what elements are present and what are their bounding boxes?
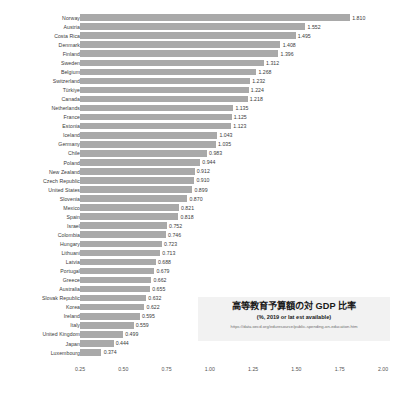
bar[interactable] (80, 60, 264, 67)
category-label: Finland (63, 51, 80, 57)
bar[interactable] (80, 50, 278, 57)
bar[interactable] (80, 213, 178, 220)
bar-value-label: 0.746 (166, 232, 181, 238)
x-axis-tick-label: 2.00 (378, 366, 388, 372)
category-label: Poland (64, 160, 80, 166)
bar[interactable] (80, 23, 305, 30)
bar-row: Costa Rica1.495 (0, 31, 398, 40)
bar-value-label: 0.983 (207, 150, 222, 156)
x-axis: 0.250.500.751.001.251.501.752.00 (0, 366, 398, 380)
bar[interactable] (80, 204, 179, 211)
bar[interactable] (80, 231, 166, 238)
bar-row: Germany1.035 (0, 140, 398, 149)
bar[interactable] (80, 286, 150, 293)
bar-track: 1.135 (80, 105, 383, 112)
bar[interactable] (80, 141, 216, 148)
category-label: New Zealand (49, 169, 80, 175)
category-label: Belgium (61, 69, 80, 75)
bar-row: Iceland1.043 (0, 131, 398, 140)
bar-row: Mexico0.821 (0, 203, 398, 212)
bar[interactable] (80, 87, 249, 94)
x-axis-tick-label: 0.50 (118, 366, 128, 372)
bar-row: Switzerland1.232 (0, 77, 398, 86)
bar[interactable] (80, 186, 192, 193)
category-label: Chile (68, 150, 80, 156)
bar[interactable] (80, 195, 187, 202)
bar-track: 0.910 (80, 177, 383, 184)
bar[interactable] (80, 114, 232, 121)
bar[interactable] (80, 123, 231, 130)
bar-value-label: 0.713 (160, 250, 175, 256)
category-label: France (64, 114, 80, 120)
bar-track: 0.818 (80, 213, 383, 220)
bar[interactable] (80, 14, 350, 21)
bar[interactable] (80, 96, 248, 103)
category-label: Slovenia (60, 196, 80, 202)
bar-value-label: 0.632 (146, 295, 161, 301)
bar[interactable] (80, 295, 146, 302)
bar[interactable] (80, 313, 140, 320)
bar[interactable] (80, 105, 233, 112)
bar[interactable] (80, 259, 156, 266)
bar-track: 0.752 (80, 222, 383, 229)
bar[interactable] (80, 78, 250, 85)
bar-track: 1.396 (80, 50, 383, 57)
bar-track: 0.899 (80, 186, 383, 193)
bar-value-label: 0.374 (101, 349, 116, 355)
bar[interactable] (80, 32, 296, 39)
bar[interactable] (80, 132, 217, 139)
chart-page: Norway1.810Austria1.552Costa Rica1.495De… (0, 0, 398, 395)
bar[interactable] (80, 268, 154, 275)
category-label: Portugal (60, 268, 80, 274)
category-label: Norway (62, 15, 80, 21)
bar-track: 0.944 (80, 159, 383, 166)
x-axis-tick-label: 1.00 (205, 366, 215, 372)
category-label: Mexico (63, 205, 80, 211)
bar[interactable] (80, 177, 194, 184)
bar-row: Israel0.752 (0, 221, 398, 230)
source-url-link[interactable]: https://data.oecd.org/eduresource/public… (202, 323, 386, 330)
category-label: Japan (66, 341, 80, 347)
bar-row: Denmark1.408 (0, 40, 398, 49)
bar-value-label: 0.595 (140, 313, 155, 319)
bar-track: 0.746 (80, 231, 383, 238)
bar[interactable] (80, 168, 195, 175)
bar-row: Canada1.218 (0, 95, 398, 104)
bar[interactable] (80, 322, 134, 329)
bar[interactable] (80, 349, 101, 356)
annotation-box: 高等教育予算額の対 GDP 比率 (%, 2019 or lat est ava… (198, 297, 390, 341)
bar-track: 1.232 (80, 78, 383, 85)
category-label: Spain (66, 214, 80, 220)
bar[interactable] (80, 41, 280, 48)
bar-track: 0.713 (80, 250, 383, 257)
bar-row: Luxembourg0.374 (0, 348, 398, 357)
bar[interactable] (80, 69, 256, 76)
bar-value-label: 1.552 (305, 24, 320, 30)
bar[interactable] (80, 331, 123, 338)
category-label: Switzerland (53, 78, 80, 84)
bar-value-label: 0.870 (187, 196, 202, 202)
category-label: Denmark (59, 42, 80, 48)
x-axis-tick-label: 0.75 (162, 366, 172, 372)
bar-row: Australia0.655 (0, 285, 398, 294)
bar-value-label: 1.396 (278, 51, 293, 57)
bar[interactable] (80, 340, 114, 347)
bar-value-label: 0.899 (192, 187, 207, 193)
bar[interactable] (80, 222, 167, 229)
bar-track: 0.444 (80, 340, 383, 347)
category-label: Netherlands (51, 105, 80, 111)
bar-row: New Zealand0.912 (0, 167, 398, 176)
bar[interactable] (80, 150, 207, 157)
bar-value-label: 0.622 (144, 304, 159, 310)
bar[interactable] (80, 277, 151, 284)
bar[interactable] (80, 250, 160, 257)
category-label: Ireland (64, 313, 80, 319)
bar[interactable] (80, 304, 144, 311)
bar-value-label: 0.499 (123, 331, 138, 337)
bar[interactable] (80, 159, 200, 166)
bar-row: Netherlands1.135 (0, 104, 398, 113)
bar-value-label: 0.818 (178, 214, 193, 220)
bar-row: Latvia0.688 (0, 258, 398, 267)
bar[interactable] (80, 241, 162, 248)
bar-value-label: 0.723 (162, 241, 177, 247)
